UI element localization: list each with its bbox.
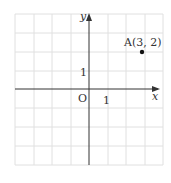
coordinate-plane: y x O 1 1 A(3, 2) (0, 0, 171, 183)
x-unit-label: 1 (103, 94, 110, 107)
x-axis-label: x (152, 90, 159, 103)
y-axis-label: y (79, 10, 87, 23)
y-unit-label: 1 (80, 66, 87, 79)
origin-label: O (78, 92, 87, 105)
point-a-label: A(3, 2) (123, 36, 162, 49)
point-a (140, 50, 144, 54)
